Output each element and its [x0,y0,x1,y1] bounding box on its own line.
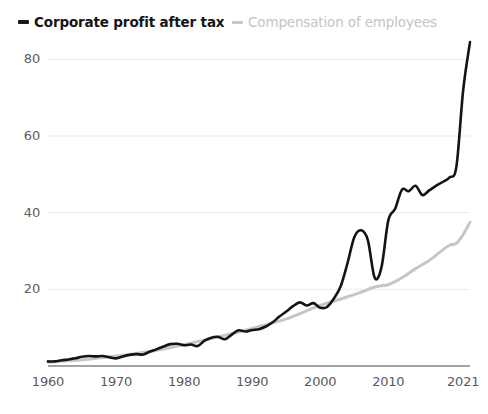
x-axis-tick-label: 1970 [86,374,146,389]
data-series-group [48,42,470,362]
x-axis-tick-label: 1960 [18,374,78,389]
y-axis-tick-label: 40 [0,205,40,220]
series-line-compensation [48,222,470,362]
x-axis-tick-label: 1990 [222,374,282,389]
x-axis-tick-label: 2000 [290,374,350,389]
y-axis-tick-label: 80 [0,51,40,66]
series-line-corporate-profit [48,42,470,361]
chart-plot-svg [0,0,488,414]
plot-area: 20406080 1960197019801990200020102021 [0,0,488,414]
chart-container: Corporate profit after tax Compensation … [0,0,488,414]
y-axis-tick-label: 20 [0,281,40,296]
x-axis-tick-label: 2021 [433,374,488,389]
x-axis-tick-label: 1980 [154,374,214,389]
y-axis-tick-label: 60 [0,128,40,143]
x-axis-tick-label: 2010 [358,374,418,389]
gridlines-group [48,59,470,289]
